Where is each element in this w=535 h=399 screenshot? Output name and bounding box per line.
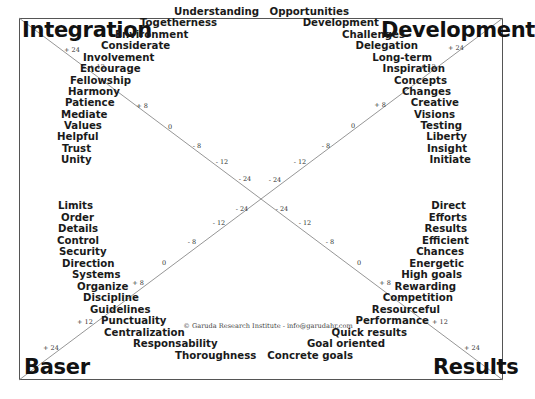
word-integration: Mediate xyxy=(61,110,108,120)
word-integration: Patience xyxy=(65,98,115,108)
word-development: Opportunities xyxy=(270,7,349,17)
tick-label: - 24 xyxy=(269,177,282,184)
tick-label: - 8 xyxy=(193,143,201,150)
word-results: Concrete goals xyxy=(267,351,353,361)
word-baser: Guidelines xyxy=(90,305,151,315)
word-results: Rewarding xyxy=(395,282,456,292)
tick-label: + 24 xyxy=(464,345,480,352)
tick-label: - 8 xyxy=(188,239,196,246)
tick-label: 0 xyxy=(351,123,355,130)
word-baser: Responsability xyxy=(133,339,218,349)
tick-label: - 12 xyxy=(213,220,226,227)
word-results: High goals xyxy=(401,270,462,280)
word-integration: Harmony xyxy=(68,87,120,97)
word-baser: Security xyxy=(59,247,107,257)
word-integration: Involvement xyxy=(83,53,154,63)
word-baser: Direction xyxy=(62,259,115,269)
tick-label: + 8 xyxy=(132,280,144,287)
tick-label: - 24 xyxy=(239,176,252,183)
word-results: Energetic xyxy=(409,259,464,269)
word-development: Visions xyxy=(414,110,455,120)
word-integration: Understanding xyxy=(174,7,259,17)
word-baser: Discipline xyxy=(83,293,139,303)
tick-label: - 8 xyxy=(322,143,330,150)
tick-label: + 8 xyxy=(379,280,391,287)
tick-label: - 12 xyxy=(216,159,229,166)
tick-label: + 12 xyxy=(77,319,93,326)
word-integration: Values xyxy=(64,121,102,131)
word-development: Initiate xyxy=(429,155,471,165)
tick-label: - 12 xyxy=(299,220,312,227)
word-integration: Helpful xyxy=(57,132,98,142)
word-results: Efforts xyxy=(429,213,467,223)
tick-label: + 8 xyxy=(374,102,386,109)
word-integration: Trust xyxy=(62,144,91,154)
tick-label: + 12 xyxy=(89,64,105,71)
tick-label: - 8 xyxy=(326,239,334,246)
word-integration: Considerate xyxy=(101,41,170,51)
tick-label: - 24 xyxy=(276,206,289,213)
word-results: Resourceful xyxy=(372,305,440,315)
tick-label: + 24 xyxy=(64,47,80,54)
tick-label: + 24 xyxy=(448,45,464,52)
word-baser: Punctuality xyxy=(101,316,167,326)
tick-label: 0 xyxy=(162,260,166,267)
tick-label: + 8 xyxy=(136,103,148,110)
word-development: Testing xyxy=(421,121,462,131)
word-development: Insight xyxy=(427,144,467,154)
word-results: Direct xyxy=(431,201,466,211)
word-baser: Limits xyxy=(58,201,93,211)
word-baser: Organize xyxy=(77,282,128,292)
tick-label: - 24 xyxy=(236,206,249,213)
word-baser: Centralization xyxy=(104,328,185,338)
tick-label: + 12 xyxy=(420,64,436,71)
word-development: Creative xyxy=(411,98,459,108)
copyright-text: © Garuda Research Institute - info@garud… xyxy=(183,322,352,330)
word-results: Competition xyxy=(383,293,453,303)
tick-label: + 24 xyxy=(43,345,59,352)
word-development: Liberty xyxy=(426,132,467,142)
word-results: Performance xyxy=(355,316,429,326)
tick-label: - 12 xyxy=(294,159,307,166)
word-baser: Control xyxy=(57,236,99,246)
corner-label-results: Results xyxy=(433,357,519,378)
word-development: Concepts xyxy=(394,76,447,86)
tick-label: 0 xyxy=(168,124,172,131)
word-baser: Thoroughness xyxy=(175,351,256,361)
word-development: Development xyxy=(303,18,379,28)
word-baser: Order xyxy=(61,213,94,223)
word-development: Changes xyxy=(402,87,451,97)
word-baser: Systems xyxy=(72,270,121,280)
word-results: Goal oriented xyxy=(307,339,385,349)
word-integration: Togetherness xyxy=(140,18,217,28)
word-development: Long-term xyxy=(372,53,432,63)
word-results: Efficient xyxy=(422,236,469,246)
word-baser: Details xyxy=(58,224,98,234)
word-development: Challenges xyxy=(342,30,405,40)
corner-label-baser: Baser xyxy=(24,357,90,378)
tick-label: + 12 xyxy=(432,319,448,326)
word-results: Results xyxy=(425,224,468,234)
word-development: Delegation xyxy=(355,41,418,51)
word-integration: Environment xyxy=(115,30,188,40)
word-integration: Unity xyxy=(61,155,92,165)
word-results: Chances xyxy=(416,247,464,257)
word-integration: Fellowship xyxy=(70,76,131,86)
tick-label: 0 xyxy=(357,260,361,267)
